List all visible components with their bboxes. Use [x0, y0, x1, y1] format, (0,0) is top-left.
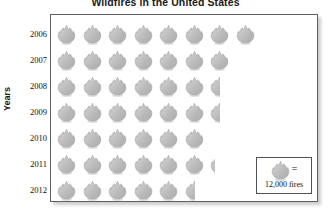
icon-group: [57, 177, 210, 203]
flame-icon: [83, 50, 102, 71]
flame-cell: [108, 125, 134, 151]
legend-value-label: 12,000 fires: [265, 180, 303, 190]
pictogram-row: 2010: [51, 125, 317, 151]
icon-group: [57, 21, 261, 47]
flame-cell: [134, 73, 160, 99]
flame-icon: [159, 102, 178, 123]
year-label-2008: 2008: [1, 73, 47, 99]
flame-icon: [108, 154, 127, 175]
flame-cell: [83, 21, 109, 47]
flame-cell: [185, 21, 211, 47]
flame-cell: [134, 99, 160, 125]
legend-box: = 12,000 fires: [256, 157, 312, 194]
flame-icon: [159, 180, 178, 201]
flame-icon: [108, 128, 127, 149]
flame-cell: [210, 73, 236, 99]
flame-icon: [271, 160, 290, 181]
flame-icon: [108, 102, 127, 123]
wildfires-pictogram-chart: Wildfires in the United States Years 200…: [0, 0, 331, 216]
flame-cell: [57, 151, 83, 177]
legend-equals-symbol: =: [292, 163, 298, 174]
flame-icon: [185, 128, 204, 149]
flame-icon: [57, 50, 76, 71]
flame-icon: [185, 50, 204, 71]
flame-icon: [185, 24, 204, 45]
flame-cell: [134, 21, 160, 47]
flame-icon: [134, 50, 153, 71]
flame-icon: [108, 24, 127, 45]
flame-icon: [83, 76, 102, 97]
flame-icon: [159, 24, 178, 45]
year-label-2012: 2012: [1, 177, 47, 203]
icon-group: [57, 99, 236, 125]
flame-cell: [185, 73, 211, 99]
flame-icon: [108, 76, 127, 97]
flame-cell: [108, 47, 134, 73]
flame-icon: [185, 76, 204, 97]
flame-cell: [134, 177, 160, 203]
flame-icon: [134, 76, 153, 97]
flame-icon: [159, 154, 178, 175]
legend-key: =: [271, 160, 298, 180]
flame-icon: [159, 50, 178, 71]
flame-icon: [57, 180, 76, 201]
flame-icon: [134, 154, 153, 175]
flame-icon: [83, 180, 102, 201]
flame-cell: [57, 73, 83, 99]
flame-cell: [83, 177, 109, 203]
flame-cell: [185, 125, 211, 151]
flame-icon: [236, 24, 255, 45]
flame-icon: [83, 128, 102, 149]
flame-icon: [108, 180, 127, 201]
year-label-2007: 2007: [1, 47, 47, 73]
flame-cell: [108, 177, 134, 203]
icon-group: [57, 47, 236, 73]
flame-cell: [210, 151, 236, 177]
flame-icon: [57, 102, 76, 123]
year-label-2009: 2009: [1, 99, 47, 125]
flame-cell: [57, 21, 83, 47]
flame-icon: [134, 128, 153, 149]
flame-icon: [134, 180, 153, 201]
flame-icon: [134, 24, 153, 45]
pictogram-row: 2009: [51, 99, 317, 125]
flame-icon: [57, 76, 76, 97]
flame-icon: [185, 154, 204, 175]
year-label-2010: 2010: [1, 125, 47, 151]
flame-cell: [185, 151, 211, 177]
flame-icon: [83, 102, 102, 123]
flame-cell: [134, 47, 160, 73]
flame-cell: [159, 73, 185, 99]
flame-cell: [83, 99, 109, 125]
pictogram-row: 2008: [51, 73, 317, 99]
flame-cell: [159, 151, 185, 177]
flame-cell: [159, 21, 185, 47]
flame-cell: [159, 99, 185, 125]
flame-cell: [185, 99, 211, 125]
flame-cell: [134, 151, 160, 177]
flame-cell: [159, 47, 185, 73]
year-label-2006: 2006: [1, 21, 47, 47]
flame-cell: [108, 151, 134, 177]
flame-cell: [108, 99, 134, 125]
flame-icon: [159, 76, 178, 97]
icon-group: [57, 73, 236, 99]
flame-icon: [210, 154, 215, 175]
flame-cell: [57, 47, 83, 73]
flame-icon: [57, 154, 76, 175]
flame-icon: [57, 128, 76, 149]
icon-group: [57, 151, 236, 177]
flame-icon: [108, 50, 127, 71]
flame-cell: [185, 177, 211, 203]
pictogram-row: 2006: [51, 21, 317, 47]
flame-cell: [57, 125, 83, 151]
flame-icon: [185, 180, 195, 201]
chart-title: Wildfires in the United States: [0, 0, 331, 8]
flame-cell: [159, 177, 185, 203]
flame-cell: [134, 125, 160, 151]
pictogram-row: 2007: [51, 47, 317, 73]
flame-cell: [210, 47, 236, 73]
flame-icon: [210, 76, 220, 97]
flame-cell: [210, 99, 236, 125]
flame-icon: [83, 154, 102, 175]
